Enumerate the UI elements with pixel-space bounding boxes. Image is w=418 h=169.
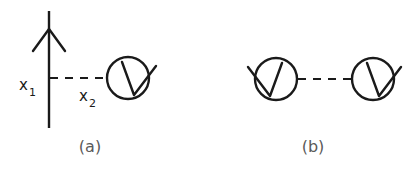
panel-b-caption: (b) [302, 137, 325, 156]
chevron-icon [367, 63, 401, 96]
x1-variable: x [19, 76, 28, 94]
chevron-icon [248, 63, 282, 96]
x2-label: x 2 [79, 87, 96, 110]
chevron-circle-b-right [352, 58, 401, 100]
figure-container: x 1 x 2 (a) [0, 0, 418, 169]
panel-a-caption: (a) [79, 137, 101, 156]
x1-label: x 1 [19, 76, 36, 99]
x2-subscript: 2 [89, 97, 96, 110]
panel-b: (b) [248, 58, 401, 156]
chevron-circle-a [107, 57, 156, 99]
chevron-circle-b-left [248, 58, 297, 100]
panel-a: x 1 x 2 (a) [19, 11, 156, 156]
x1-subscript: 1 [29, 86, 36, 99]
x2-variable: x [79, 87, 88, 105]
chevron-icon [122, 62, 156, 95]
upward-arrow [33, 11, 65, 128]
figure-canvas: x 1 x 2 (a) [0, 0, 418, 169]
